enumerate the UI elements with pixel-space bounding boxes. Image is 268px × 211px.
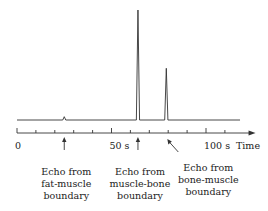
annotation-text: fat-muscle <box>41 178 92 189</box>
x-tick-label: 100 s <box>204 140 230 151</box>
signal-trace <box>17 10 240 120</box>
annotation-text: Echo from <box>41 166 91 177</box>
annotation-text: bone-muscle <box>178 174 239 185</box>
annotation-text: Echo from <box>183 162 233 173</box>
x-axis-arrowhead <box>249 131 256 136</box>
annotation-arrow <box>169 142 178 152</box>
x-axis-label: Time <box>236 140 260 151</box>
annotation-arrowhead <box>62 137 66 142</box>
annotation-text: Echo from <box>115 166 165 177</box>
x-tick-label: 50 s <box>110 140 130 151</box>
echo-chart: 050 s100 sTime Echo fromfat-musclebounda… <box>0 0 268 211</box>
annotation-text: muscle-bone <box>110 178 171 189</box>
x-tick-label: 0 <box>15 140 21 151</box>
annotation-arrowhead <box>136 137 140 142</box>
signal-line <box>17 10 240 120</box>
annotation-text: boundary <box>117 190 163 201</box>
annotation-text: boundary <box>185 186 231 197</box>
annotation-text: boundary <box>43 190 89 201</box>
